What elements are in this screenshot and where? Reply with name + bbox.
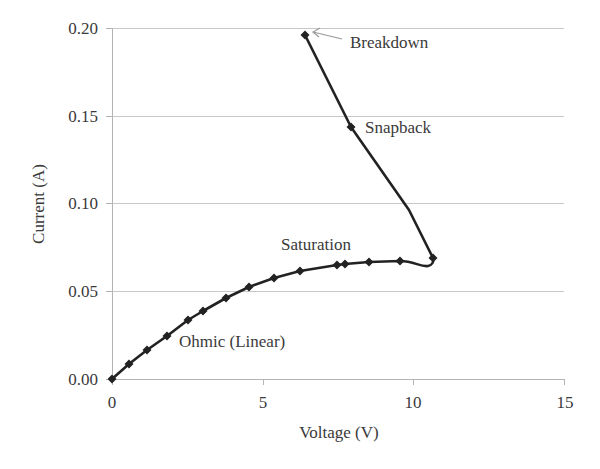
data-markers xyxy=(108,31,438,384)
data-point xyxy=(365,258,374,267)
y-tick-labels: 0.20 0.15 0.10 0.05 0.00 xyxy=(68,19,98,389)
data-point xyxy=(396,257,405,266)
iv-chart: 0.20 0.15 0.10 0.05 0.00 0 5 10 15 Volta… xyxy=(0,0,600,469)
data-point xyxy=(270,274,279,283)
iv-curve xyxy=(112,35,433,379)
x-tick-label: 15 xyxy=(557,393,574,412)
data-point xyxy=(245,283,254,292)
y-tick-label: 0.10 xyxy=(68,194,98,213)
annotation-snapback: Snapback xyxy=(365,118,432,137)
data-point xyxy=(296,267,305,276)
data-point xyxy=(341,260,350,269)
data-point xyxy=(333,261,342,270)
x-tick-label: 5 xyxy=(259,393,268,412)
annotation-ohmic: Ohmic (Linear) xyxy=(179,332,285,351)
annotation-saturation: Saturation xyxy=(281,235,351,254)
y-tick-label: 0.00 xyxy=(68,370,98,389)
x-tick-labels: 0 5 10 15 xyxy=(108,393,574,412)
x-axis-title: Voltage (V) xyxy=(299,423,378,442)
x-tick-label: 10 xyxy=(405,393,422,412)
x-tick-label: 0 xyxy=(108,393,117,412)
y-tick-label: 0.20 xyxy=(68,19,98,38)
data-point xyxy=(301,31,310,40)
data-point xyxy=(429,254,438,263)
breakdown-arrow-icon xyxy=(313,28,342,39)
y-tick-label: 0.15 xyxy=(68,107,98,126)
y-axis-title: Current (A) xyxy=(29,164,48,244)
annotation-breakdown: Breakdown xyxy=(350,33,429,52)
y-tick-label: 0.05 xyxy=(68,282,98,301)
